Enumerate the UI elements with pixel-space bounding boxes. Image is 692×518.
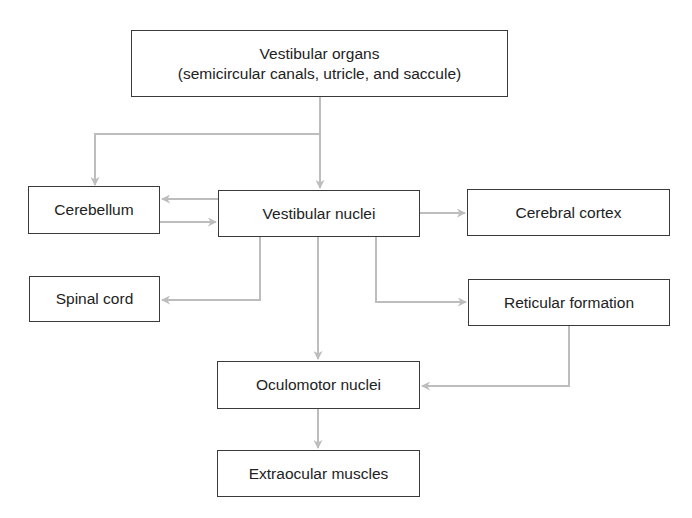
- edge-reticular-to-oculomotor: [422, 326, 569, 386]
- node-cerebral-cortex-label: Cerebral cortex: [516, 203, 622, 223]
- node-reticular-formation: Reticular formation: [468, 279, 670, 326]
- node-reticular-formation-label: Reticular formation: [504, 293, 634, 313]
- node-vestibular-organs-subtitle: (semicircular canals, utricle, and saccu…: [178, 64, 461, 84]
- node-vestibular-nuclei-label: Vestibular nuclei: [263, 204, 376, 224]
- node-cerebellum-label: Cerebellum: [54, 200, 133, 220]
- node-cerebellum: Cerebellum: [28, 186, 160, 234]
- node-spinal-cord-label: Spinal cord: [56, 289, 134, 309]
- edge-nuclei-to-reticular: [376, 237, 466, 302]
- node-extraocular-muscles-label: Extraocular muscles: [249, 464, 389, 484]
- node-vestibular-nuclei: Vestibular nuclei: [218, 190, 420, 237]
- edge-organs-to-cerebellum: [95, 134, 320, 185]
- node-vestibular-organs: Vestibular organs (semicircular canals, …: [131, 30, 508, 97]
- node-extraocular-muscles: Extraocular muscles: [217, 450, 420, 497]
- node-cerebral-cortex: Cerebral cortex: [467, 189, 670, 236]
- node-oculomotor-nuclei: Oculomotor nuclei: [217, 361, 420, 409]
- edge-nuclei-to-spinal-cord: [162, 237, 260, 300]
- node-vestibular-organs-title: Vestibular organs: [260, 44, 380, 64]
- node-oculomotor-nuclei-label: Oculomotor nuclei: [256, 375, 381, 395]
- node-spinal-cord: Spinal cord: [29, 276, 160, 322]
